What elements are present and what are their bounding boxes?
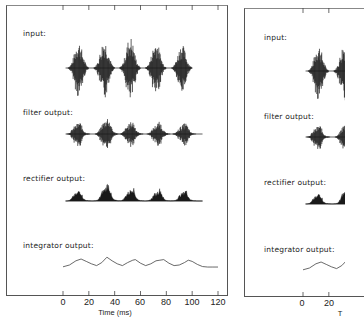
right-label-integrator-output: integrator output: (264, 245, 335, 254)
right-tick-label-20: 20 (324, 298, 334, 308)
right-label-filter-output: filter output: (264, 112, 314, 121)
right-x-axis-label-partial: T (338, 309, 343, 318)
right-tick-label-0: 0 (299, 298, 304, 308)
right-label-rectifier-output: rectifier output: (264, 178, 326, 187)
right-label-input: input: (264, 33, 287, 42)
